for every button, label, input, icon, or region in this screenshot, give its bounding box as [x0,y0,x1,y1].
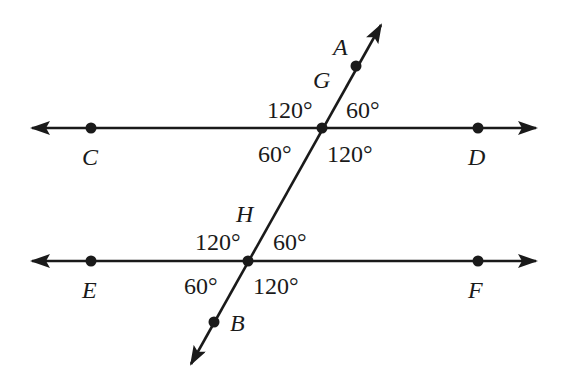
geometry-diagram: AGCDHEFB 120°60°60°120°120°60°60°120° [0,0,564,387]
point-label-a: A [331,34,348,60]
point-e [86,256,97,267]
diagram-svg: AGCDHEFB 120°60°60°120°120°60°60°120° [0,0,564,387]
point-label-b: B [230,310,245,336]
angle-label-h-lower-right: 120° [253,273,299,299]
point-c [86,123,97,134]
angle-label-g-upper-right: 60° [346,97,380,123]
point-a [351,61,362,72]
angle-label-g-lower-left: 60° [258,141,292,167]
point-h [243,256,254,267]
point-label-h: H [235,201,255,227]
point-g [317,123,328,134]
point-label-e: E [81,277,97,303]
lines-layer [32,25,536,364]
angle-label-h-lower-left: 60° [184,273,218,299]
point-label-d: D [467,144,485,170]
point-label-c: C [82,144,99,170]
transversal-AB [191,25,381,364]
point-label-g: G [313,67,330,93]
point-b [209,317,220,328]
angle-label-g-lower-right: 120° [327,141,373,167]
angle-label-h-upper-left: 120° [195,229,241,255]
point-label-f: F [467,277,483,303]
angle-label-h-upper-right: 60° [273,229,307,255]
angle-label-g-upper-left: 120° [267,97,313,123]
point-d [473,123,484,134]
point-f [473,256,484,267]
